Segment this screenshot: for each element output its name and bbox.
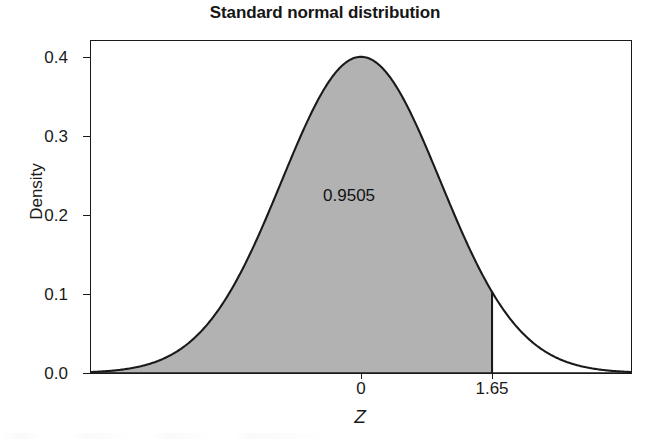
x-axis-title: Z [0,407,646,426]
shaded-area-path [91,57,492,373]
plot-area [90,40,632,374]
y-tick-label: 0.2 [22,207,68,224]
page-scan-artifact [0,433,340,439]
x-tick-label: 0 [316,380,406,397]
y-axis-title: Density [28,132,45,252]
y-tick-label: 0.1 [22,286,68,303]
y-tick-label: 0.0 [22,365,68,382]
normal-distribution-figure: Standard normal distribution Density 0.0… [0,0,646,442]
y-tick-mark [83,215,90,216]
y-tick-mark [83,136,90,137]
y-tick-label: 0.3 [22,128,68,145]
x-tick-label: 1.65 [447,380,537,397]
y-tick-mark [83,373,90,374]
y-tick-mark [83,294,90,295]
y-tick-label: 0.4 [22,49,68,66]
y-tick-mark [83,57,90,58]
distribution-plot [91,41,631,373]
chart-title: Standard normal distribution [0,3,646,23]
shaded-area-label: 0.9505 [289,187,409,204]
